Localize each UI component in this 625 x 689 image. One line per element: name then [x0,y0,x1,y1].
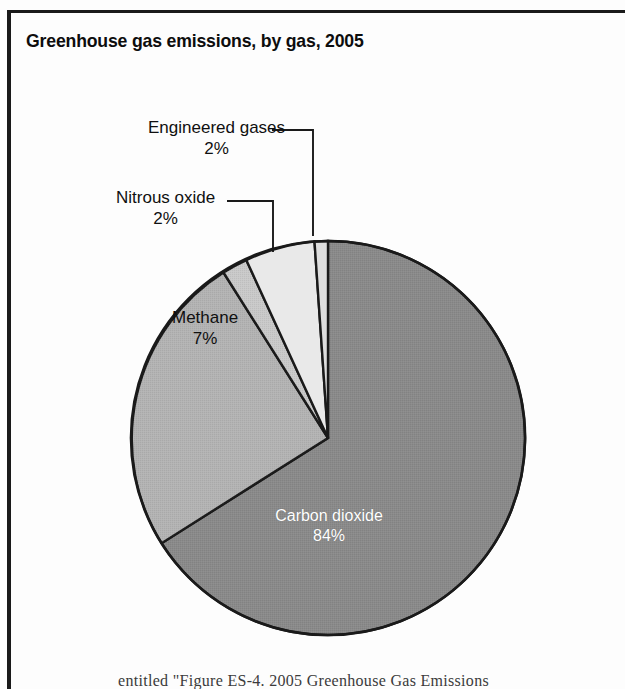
slice-label-percent: 2% [116,209,215,230]
source-caption: entitled "Figure ES-4. 2005 Greenhouse G… [118,672,618,689]
slice-label-name: Carbon dioxide [249,506,409,526]
slice-label-name: Methane [172,308,238,329]
slice-label-name: Engineered gases [148,118,285,139]
slice-label-nitrous-oxide: Nitrous oxide 2% [116,188,215,229]
figure-container: Greenhouse gas emissions, by gas, 2005 [0,0,625,689]
slice-label-percent: 84% [249,526,409,546]
slice-label-engineered-gases: Engineered gases 2% [148,118,285,159]
slice-label-percent: 7% [172,329,238,350]
slice-label-carbon-dioxide: Carbon dioxide 84% [249,506,409,546]
slice-label-percent: 2% [148,139,285,160]
slice-label-methane: Methane 7% [172,308,238,349]
slice-label-name: Nitrous oxide [116,188,215,209]
leader-line-nitrous-oxide [227,201,273,252]
pie-chart [0,0,625,689]
